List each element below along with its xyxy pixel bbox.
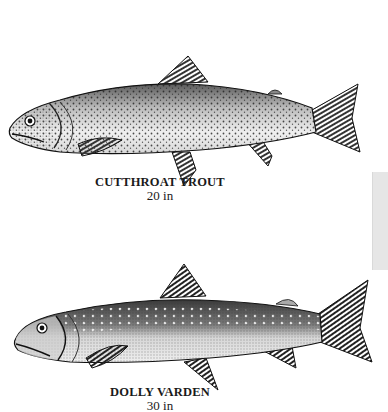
cutthroat-trout-caption: CUTTHROAT TROUT 20 in (80, 175, 240, 203)
dolly-varden-illustration (0, 258, 375, 398)
fish-name: DOLLY VARDEN (80, 385, 240, 399)
fish-name: CUTTHROAT TROUT (80, 175, 240, 189)
dolly-varden-drawing (0, 258, 375, 398)
dolly-varden-caption: DOLLY VARDEN 30 in (80, 385, 240, 412)
cutthroat-trout-drawing (0, 48, 370, 188)
fish-size: 20 in (80, 189, 240, 203)
cutthroat-trout-illustration (0, 48, 370, 188)
fish-size: 30 in (80, 399, 240, 412)
side-panel-tab[interactable] (372, 172, 388, 270)
